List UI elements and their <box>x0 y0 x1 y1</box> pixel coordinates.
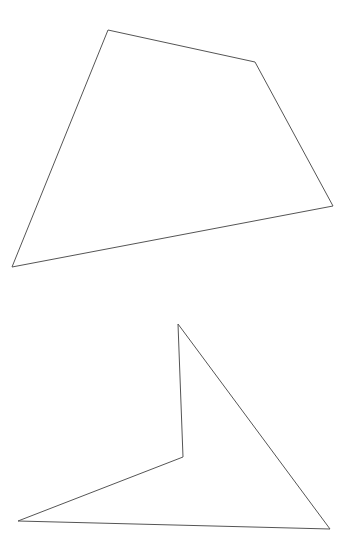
concave-quadrilateral-shape <box>18 324 330 529</box>
diagram-canvas <box>0 0 354 552</box>
quadrilateral-shape <box>12 30 333 267</box>
